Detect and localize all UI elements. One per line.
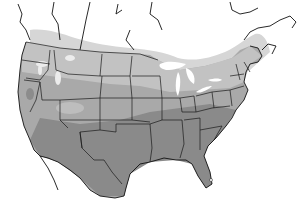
lake-okeechobee	[210, 179, 213, 182]
zone-dark-patch-6	[26, 88, 34, 100]
zone-light-patch-1	[36, 61, 48, 67]
zone-light-patch-3	[55, 71, 61, 85]
zone-light-patch-2	[65, 55, 75, 61]
zone-light-patch-4	[38, 65, 42, 75]
map-container	[0, 0, 304, 208]
north-america-map	[0, 0, 304, 208]
